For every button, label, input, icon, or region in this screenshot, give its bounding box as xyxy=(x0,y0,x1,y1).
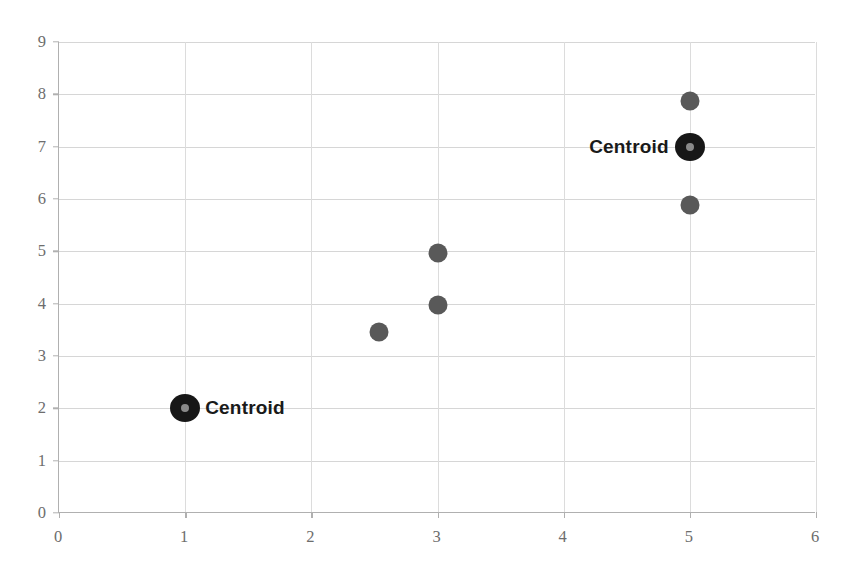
y-axis-tick-mark xyxy=(53,146,59,147)
y-axis-tick-label: 3 xyxy=(6,346,46,366)
data-point-marker xyxy=(428,244,447,263)
x-axis-tick-label: 6 xyxy=(795,527,835,547)
gridline-vertical xyxy=(690,42,691,512)
data-point-marker xyxy=(680,195,699,214)
y-axis-tick-label: 1 xyxy=(6,451,46,471)
y-axis-tick-label: 9 xyxy=(6,32,46,52)
y-axis-tick-mark xyxy=(53,251,59,252)
data-point-marker xyxy=(428,295,447,314)
x-axis-tick-label: 0 xyxy=(38,527,78,547)
x-axis-tick-mark xyxy=(564,512,565,518)
centroid-marker xyxy=(675,133,705,161)
y-axis-tick-mark xyxy=(53,198,59,199)
y-axis-tick-mark xyxy=(53,408,59,409)
y-axis-tick-mark xyxy=(53,460,59,461)
x-axis-tick-label: 4 xyxy=(543,527,583,547)
x-axis-tick-label: 5 xyxy=(669,527,709,547)
x-axis-tick-mark xyxy=(59,512,60,518)
scatter-chart: CentroidCentroid 01234567890123456 xyxy=(0,0,851,574)
plot-area: CentroidCentroid xyxy=(58,42,815,513)
x-axis-tick-mark xyxy=(690,512,691,518)
y-axis-tick-label: 7 xyxy=(6,137,46,157)
centroid-label: Centroid xyxy=(205,397,285,419)
gridline-vertical xyxy=(185,42,186,512)
gridline-vertical xyxy=(311,42,312,512)
y-axis-tick-label: 4 xyxy=(6,294,46,314)
data-point-marker xyxy=(680,91,699,110)
centroid-marker xyxy=(170,394,200,422)
gridline-vertical xyxy=(816,42,817,512)
y-axis-tick-label: 8 xyxy=(6,84,46,104)
x-axis-tick-mark xyxy=(185,512,186,518)
y-axis-tick-mark xyxy=(53,355,59,356)
x-axis-tick-label: 2 xyxy=(290,527,330,547)
data-point-marker xyxy=(370,322,389,341)
x-axis-tick-mark xyxy=(816,512,817,518)
x-axis-tick-mark xyxy=(311,512,312,518)
gridline-vertical xyxy=(438,42,439,512)
y-axis-tick-label: 0 xyxy=(6,503,46,523)
x-axis-tick-mark xyxy=(438,512,439,518)
y-axis-tick-mark xyxy=(53,94,59,95)
x-axis-tick-label: 3 xyxy=(417,527,457,547)
y-axis-tick-mark xyxy=(53,303,59,304)
y-axis-tick-label: 5 xyxy=(6,241,46,261)
x-axis-tick-label: 1 xyxy=(164,527,204,547)
y-axis-tick-mark xyxy=(53,41,59,42)
y-axis-tick-label: 6 xyxy=(6,189,46,209)
y-axis-tick-label: 2 xyxy=(6,398,46,418)
centroid-label: Centroid xyxy=(589,136,669,158)
gridline-vertical xyxy=(564,42,565,512)
